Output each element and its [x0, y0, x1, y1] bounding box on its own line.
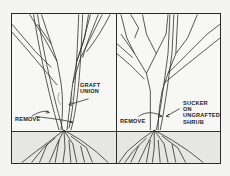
left-panel-grafted-shrub: GRAFTUNION REMOVE — [11, 13, 117, 164]
sucker-label-line2: ON — [183, 106, 192, 112]
graft-union-label-line2: UNION — [80, 88, 99, 94]
graft-union-label-line1: GRAFT — [80, 82, 100, 88]
ungrafted-shrub-illustration — [117, 14, 220, 163]
sucker-label-line4: SHRUB — [183, 119, 204, 125]
remove-label-right: REMOVE — [120, 118, 145, 124]
right-panel-ungrafted-shrub: SUCKERONUNGRAFTEDSHRUB REMOVE — [116, 13, 221, 164]
remove-label-left: REMOVE — [15, 116, 40, 122]
sucker-label: SUCKERONUNGRAFTEDSHRUB — [183, 100, 220, 125]
sucker-label-line3: UNGRAFTED — [183, 112, 220, 118]
grafted-shrub-illustration — [12, 14, 116, 163]
graft-union-label: GRAFTUNION — [80, 82, 100, 94]
sucker-label-line1: SUCKER — [183, 100, 208, 106]
